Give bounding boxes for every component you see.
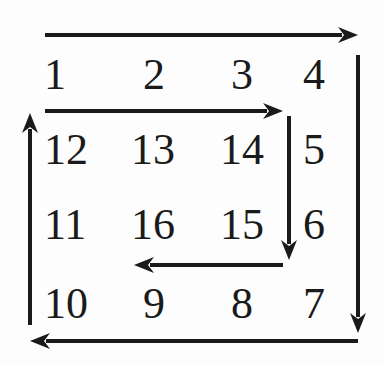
matrix-cell: 3 [231,53,253,97]
outer-up-arrow-icon [22,113,38,325]
matrix-cell: 2 [143,53,165,97]
matrix-cell: 6 [303,203,325,247]
inner-left-arrow-icon [134,257,283,273]
matrix-cell: 9 [143,282,165,326]
matrix-cell: 14 [220,128,264,172]
matrix-cell: 13 [131,128,175,172]
spiral-matrix-diagram: 12341213145111615610987 [0,0,383,365]
matrix-cell: 11 [44,203,86,247]
matrix-cell: 16 [131,203,175,247]
inner-down-arrow-icon [281,116,297,260]
outer-left-arrow-icon [30,333,358,349]
matrix-cell: 1 [44,53,66,97]
matrix-cell: 4 [303,53,325,97]
outer-right-arrow-icon [45,27,358,43]
matrix-cell: 12 [44,128,88,172]
matrix-cell: 10 [44,282,88,326]
matrix-cell: 5 [303,128,325,172]
inner-right-arrow-icon [45,103,283,119]
outer-down-arrow-icon [350,55,366,333]
matrix-cell: 15 [220,203,264,247]
matrix-cell: 7 [303,282,325,326]
matrix-cell: 8 [231,282,253,326]
